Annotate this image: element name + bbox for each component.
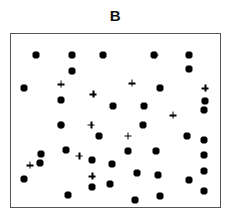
data-point-dot [109, 161, 114, 166]
data-point-plus [124, 132, 131, 139]
data-point-dot [134, 171, 139, 176]
data-point-plus [151, 51, 158, 58]
data-point-dot [70, 52, 75, 57]
data-point-dot [33, 52, 38, 57]
data-point-dot [90, 158, 95, 163]
data-point-plus [76, 152, 83, 159]
data-point-plus [202, 85, 209, 92]
data-point-dot [140, 123, 145, 128]
data-point-plus [57, 81, 64, 88]
data-point-dot [97, 133, 102, 138]
data-point-plus [89, 173, 96, 180]
data-point-dot [101, 52, 106, 57]
data-point-dot [58, 98, 63, 103]
data-point-dot [185, 133, 190, 138]
data-point-dot [187, 178, 192, 183]
data-point-dot [108, 182, 113, 187]
data-point-dot [70, 68, 75, 73]
data-point-dot [157, 194, 162, 199]
data-point-dot [21, 177, 26, 182]
data-point-dot [187, 66, 192, 71]
data-point-dot [202, 108, 207, 113]
data-point-dot [157, 86, 162, 91]
data-point-dot [110, 104, 115, 109]
data-point-dot [202, 137, 207, 142]
data-point-dot [187, 52, 192, 57]
data-point-dot [125, 148, 130, 153]
data-point-plus [128, 80, 135, 87]
data-point-dot [153, 148, 158, 153]
data-point-dot [21, 86, 26, 91]
data-point-dot [37, 160, 42, 165]
plot-frame [10, 33, 221, 208]
data-point-dot [155, 173, 160, 178]
data-point-dot [38, 151, 43, 156]
data-point-dot [202, 189, 207, 194]
data-point-dot [90, 185, 95, 190]
data-point-dot [66, 193, 71, 198]
data-point-plus [57, 122, 64, 129]
data-point-plus [26, 162, 33, 169]
page-title: B [0, 8, 231, 24]
data-point-dot [202, 168, 207, 173]
data-point-dot [63, 147, 68, 152]
data-point-plus [88, 122, 95, 129]
scatter-plot-figure: B [0, 0, 231, 223]
data-point-dot [132, 198, 137, 203]
data-point-dot [141, 104, 146, 109]
data-point-plus [90, 91, 97, 98]
data-point-plus [169, 112, 176, 119]
data-point-dot [202, 152, 207, 157]
plot-area [11, 34, 220, 207]
data-point-dot [203, 99, 208, 104]
